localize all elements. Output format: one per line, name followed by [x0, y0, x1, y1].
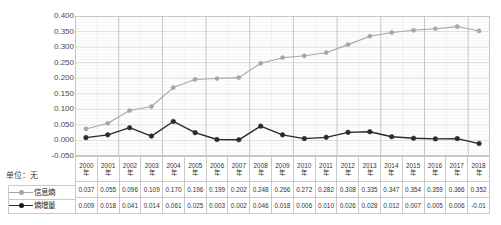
y-tick-label: -0.050 [51, 152, 74, 160]
table-cell-value: 0.006 [293, 198, 315, 214]
legend-label-0: 信息熵 [34, 189, 55, 197]
table-cell-value: 0.335 [359, 182, 381, 198]
table-cell-value: 0.012 [380, 198, 402, 214]
table-cell-value: 0.026 [337, 198, 359, 214]
table-cell-value: 0.037 [76, 182, 98, 198]
table-cell-value: 0.248 [250, 182, 272, 198]
table-cell-value: 0.018 [272, 198, 294, 214]
table-cell-value: 0.354 [402, 182, 424, 198]
table-cell-value: 0.199 [206, 182, 228, 198]
table-cell-value: 0.266 [272, 182, 294, 198]
y-tick-label: 0.150 [54, 90, 74, 98]
table-cell-value: 0.014 [141, 198, 163, 214]
table-row: 0.0370.0550.0960.1090.1700.1960.1990.202… [76, 182, 490, 198]
table-cell-year: 2006年 [206, 157, 228, 182]
legend-divider-top [8, 185, 75, 186]
table-cell-year: 2003年 [141, 157, 163, 182]
legend-label-1: 熵增量 [34, 202, 55, 210]
y-tick-label: 0.000 [54, 136, 74, 144]
legend-border-left [8, 185, 9, 214]
table-cell-value: 0.002 [228, 198, 250, 214]
unit-label: 单位：无 [6, 171, 38, 180]
table-cell-year: 2015年 [402, 157, 424, 182]
table-cell-year: 2009年 [272, 157, 294, 182]
table-cell-year: 2008年 [250, 157, 272, 182]
y-tick-label: 0.200 [54, 74, 74, 82]
table-cell-value: 0.308 [337, 182, 359, 198]
table-cell-year: 2016年 [424, 157, 446, 182]
table-cell-value: 0.272 [293, 182, 315, 198]
table-cell-value: 0.006 [446, 198, 468, 214]
table-row-years: 2000年2001年2002年2003年2004年2005年2006年2007年… [76, 157, 490, 182]
legend: 信息熵 熵增量 [8, 186, 75, 214]
table-cell-year: 2002年 [119, 157, 141, 182]
table-cell-value: -0.01 [468, 198, 490, 214]
table-cell-year: 2007年 [228, 157, 250, 182]
table-cell-value: 0.028 [359, 198, 381, 214]
table-cell-value: 0.046 [250, 198, 272, 214]
table-cell-value: 0.282 [315, 182, 337, 198]
chart-figure: 0.4000.3500.3000.2500.2000.1500.1000.050… [0, 0, 501, 225]
y-tick-label: 0.400 [54, 12, 74, 20]
table-cell-value: 0.061 [163, 198, 185, 214]
legend-marker-icon-1 [8, 200, 34, 211]
legend-divider-mid [8, 199, 75, 200]
data-table: 2000年2001年2002年2003年2004年2005年2006年2007年… [75, 156, 490, 214]
table-cell-year: 2017年 [446, 157, 468, 182]
legend-divider-bottom [8, 213, 75, 214]
y-tick-label: 0.050 [54, 121, 74, 129]
table-cell-year: 2013年 [359, 157, 381, 182]
y-tick-label: 0.250 [54, 59, 74, 67]
plot-area [75, 16, 490, 156]
table-cell-value: 0.202 [228, 182, 250, 198]
table-cell-value: 0.005 [424, 198, 446, 214]
y-axis-tick-labels: 0.4000.3500.3000.2500.2000.1500.1000.050… [30, 8, 74, 160]
table-cell-year: 2010年 [293, 157, 315, 182]
table-cell-year: 2012年 [337, 157, 359, 182]
table-cell-value: 0.018 [97, 198, 119, 214]
table-cell-value: 0.352 [468, 182, 490, 198]
table-cell-value: 0.347 [380, 182, 402, 198]
table-cell-value: 0.096 [119, 182, 141, 198]
table-cell-value: 0.055 [97, 182, 119, 198]
table-cell-value: 0.025 [184, 198, 206, 214]
legend-marker-icon-0 [8, 187, 34, 198]
table-row: 0.0090.0180.0410.0140.0610.0250.0030.002… [76, 198, 490, 214]
table-cell-year: 2005年 [184, 157, 206, 182]
table-cell-year: 2004年 [163, 157, 185, 182]
table-cell-value: 0.196 [184, 182, 206, 198]
legend-item-0: 信息熵 [8, 186, 75, 199]
table-cell-value: 0.007 [402, 198, 424, 214]
legend-item-1: 熵增量 [8, 199, 75, 212]
table-cell-value: 0.366 [446, 182, 468, 198]
y-tick-label: 0.100 [54, 105, 74, 113]
table-cell-value: 0.010 [315, 198, 337, 214]
table-cell-year: 2011年 [315, 157, 337, 182]
table-cell-value: 0.003 [206, 198, 228, 214]
table-cell-value: 0.041 [119, 198, 141, 214]
table-cell-value: 0.009 [76, 198, 98, 214]
y-tick-label: 0.300 [54, 43, 74, 51]
table-cell-year: 2001年 [97, 157, 119, 182]
y-tick-label: 0.350 [54, 28, 74, 36]
table-cell-value: 0.109 [141, 182, 163, 198]
data-table-grid: 2000年2001年2002年2003年2004年2005年2006年2007年… [75, 156, 490, 214]
table-cell-year: 2000年 [76, 157, 98, 182]
table-cell-year: 2014年 [380, 157, 402, 182]
table-cell-year: 2018年 [468, 157, 490, 182]
table-cell-value: 0.170 [163, 182, 185, 198]
table-cell-value: 0.359 [424, 182, 446, 198]
plot-svg [75, 16, 490, 156]
